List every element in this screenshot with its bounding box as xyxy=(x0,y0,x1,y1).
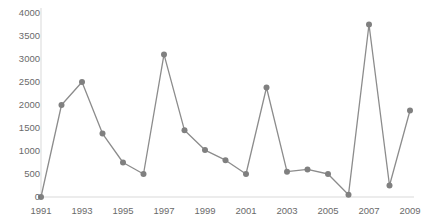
x-axis-tick-label: 1999 xyxy=(185,205,225,216)
x-axis-tick-label: 1995 xyxy=(103,205,143,216)
x-axis-tick-label: 2001 xyxy=(226,205,266,216)
x-axis-tick-label: 1991 xyxy=(21,205,61,216)
x-axis-tick-label: 2007 xyxy=(349,205,389,216)
x-axis-tick-label: 2003 xyxy=(267,205,307,216)
x-axis-tick-label: 2005 xyxy=(308,205,348,216)
x-axis-tick-label: 1993 xyxy=(62,205,102,216)
x-axis-tick-label: 2009 xyxy=(390,205,425,216)
x-axis-tick-label: 1997 xyxy=(144,205,184,216)
